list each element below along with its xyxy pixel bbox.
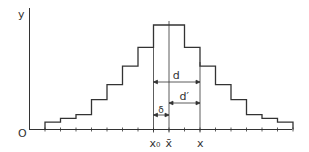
histogram-bar bbox=[76, 115, 92, 130]
histogram-bar bbox=[92, 100, 108, 130]
y-axis-label: y bbox=[18, 8, 25, 21]
origin-label: O bbox=[18, 127, 27, 140]
x0-label: x₀ bbox=[150, 137, 162, 150]
histogram-bar bbox=[123, 66, 139, 129]
x-label: x bbox=[197, 137, 204, 150]
histogram-bar bbox=[185, 47, 201, 129]
histogram-bar bbox=[107, 85, 123, 130]
histogram-bar bbox=[278, 122, 294, 129]
histogram-diagram: y O x₀ x̄ x d d′ δ bbox=[0, 0, 309, 152]
histogram-bar bbox=[216, 85, 232, 130]
xbar-label: x̄ bbox=[166, 137, 173, 150]
delta-dimension-label: δ bbox=[158, 105, 164, 115]
histogram-bar bbox=[247, 115, 263, 130]
histogram-bar bbox=[138, 47, 154, 129]
histogram-bar bbox=[231, 100, 247, 130]
histogram-bar bbox=[200, 66, 216, 129]
d-dimension-label: d bbox=[173, 69, 180, 82]
histogram-bar bbox=[61, 118, 77, 129]
histogram-bar bbox=[262, 118, 278, 129]
histogram-bar bbox=[45, 122, 61, 129]
d-prime-dimension-label: d′ bbox=[180, 90, 190, 103]
